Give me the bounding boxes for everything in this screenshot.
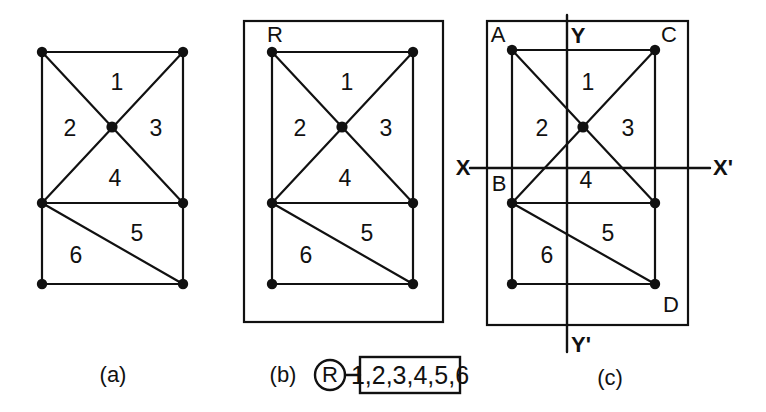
panel-b-vertex-top-right <box>408 47 418 57</box>
panel-c-axis-label-x: X <box>456 157 471 179</box>
panel-a-diagonal-lower <box>42 203 183 284</box>
panel-a-vertex-top-right <box>178 47 188 57</box>
panel-c-vertex-label-d: D <box>663 294 679 316</box>
panel-a-vertex-mid-right <box>178 198 188 208</box>
panel-c-vertex-a <box>507 45 517 55</box>
panel-a-vertex-bottom-left <box>37 279 47 289</box>
panel-c-axis-label-x-prime: X' <box>713 157 733 179</box>
panel-b-caption: (b) <box>270 364 297 386</box>
panel-b-vertex-mid-left <box>267 198 277 208</box>
panel-c-vertex-d <box>650 279 660 289</box>
panel-a-vertex-bottom-right <box>178 279 188 289</box>
panel-c-region-label-3: 3 <box>622 117 635 140</box>
panel-c-region-label-5: 5 <box>602 222 615 245</box>
panel-a-region-label-5: 5 <box>131 222 144 245</box>
panel-c-vertex-c <box>650 45 660 55</box>
panel-a-vertex-top-left <box>37 47 47 57</box>
panel-c-axis-label-y: Y <box>571 25 586 47</box>
panel-c-vertex-center <box>577 121 588 132</box>
panel-b-vertex-mid-right <box>408 198 418 208</box>
panel-c-axis-label-y-prime: Y' <box>571 334 591 356</box>
panel-b-region-label-1: 1 <box>341 71 354 94</box>
panel-a-vertex-center <box>106 121 117 132</box>
panel-c-region-label-2: 2 <box>536 117 549 140</box>
panel-c-region-label-6: 6 <box>541 244 554 267</box>
panel-c-region-label-4: 4 <box>580 169 593 192</box>
panel-c-vertex-label-a: A <box>491 24 506 46</box>
panel-b-region-label-6: 6 <box>300 244 313 267</box>
panel-b-vertex-bottom-left <box>267 279 277 289</box>
panel-a-region-label-6: 6 <box>70 244 83 267</box>
panel-b-region-label-2: 2 <box>294 117 307 140</box>
figure-vector-layer <box>0 0 766 412</box>
figure-canvas: 1 2 3 4 5 6 (a) R 1 2 3 4 5 6 (b) R 1,2,… <box>0 0 766 412</box>
panel-a-caption: (a) <box>100 364 127 386</box>
panel-c-vertex-label-c: C <box>661 24 677 46</box>
panel-b-region-label-3: 3 <box>380 117 393 140</box>
panel-b-vertex-bottom-right <box>408 279 418 289</box>
panel-a-region-label-2: 2 <box>64 117 77 140</box>
region-map-node-label: R <box>322 364 338 386</box>
panel-c-vertex-mid-right <box>650 198 660 208</box>
panel-a-region-label-3: 3 <box>150 117 163 140</box>
panel-c-vertex-label-b: B <box>492 173 507 195</box>
panel-c-vertex-b <box>507 198 517 208</box>
panel-a-vertex-mid-left <box>37 198 47 208</box>
panel-b-region-label-5: 5 <box>361 222 374 245</box>
panel-c-vertex-bottom-left <box>507 279 517 289</box>
panel-b-region-label-4: 4 <box>339 167 352 190</box>
panel-b-vertex-top-left <box>267 47 277 57</box>
panel-c-caption: (c) <box>597 367 623 389</box>
panel-b-vertex-center <box>336 121 347 132</box>
panel-c-region-label-1: 1 <box>582 71 595 94</box>
region-map-box-label: 1,2,3,4,5,6 <box>351 363 469 388</box>
panel-a-region-label-1: 1 <box>111 71 124 94</box>
panel-a-region-label-4: 4 <box>109 167 122 190</box>
panel-b-outer-region-label-r: R <box>267 24 283 46</box>
